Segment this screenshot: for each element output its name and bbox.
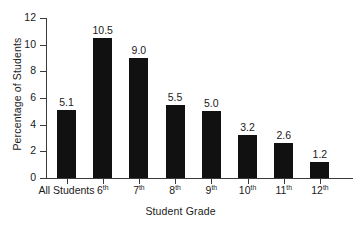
y-axis-tick-mark <box>40 18 46 19</box>
bar <box>202 111 221 178</box>
y-axis-tick-label: 4 <box>0 119 36 130</box>
bar <box>310 162 329 178</box>
y-axis-tick-label: 12 <box>0 12 36 23</box>
x-axis-title: Student Grade <box>0 205 361 217</box>
bar <box>238 135 257 178</box>
bar-value-label: 5.1 <box>47 97 87 108</box>
bar <box>57 110 76 178</box>
y-axis-tick-label: 10 <box>0 39 36 50</box>
y-axis-tick-label: 0 <box>0 172 36 183</box>
bar-value-label: 5.5 <box>155 92 195 103</box>
x-axis-line <box>46 178 353 179</box>
bar-value-label: 3.2 <box>228 122 268 133</box>
bar-value-label: 5.0 <box>191 98 231 109</box>
y-axis-tick-label: 2 <box>0 145 36 156</box>
bar-chart-figure: Percentage of Students 024681012 All Stu… <box>0 0 361 228</box>
bar <box>166 105 185 178</box>
bar-value-label: 2.6 <box>264 130 304 141</box>
bar <box>274 143 293 178</box>
y-axis-tick-label: 6 <box>0 92 36 103</box>
bar-value-label: 9.0 <box>119 45 159 56</box>
y-axis-tick-mark <box>40 98 46 99</box>
bar <box>93 38 112 178</box>
x-axis-category-label: 12th <box>285 185 355 196</box>
y-axis-tick-mark <box>40 45 46 46</box>
bar <box>129 58 148 178</box>
bar-value-label: 10.5 <box>83 25 123 36</box>
bar-value-label: 1.2 <box>300 149 340 160</box>
y-axis-tick-mark <box>40 178 46 179</box>
y-axis-tick-mark <box>40 125 46 126</box>
y-axis-tick-mark <box>40 151 46 152</box>
y-axis-tick-mark <box>40 71 46 72</box>
y-axis-tick-label: 8 <box>0 65 36 76</box>
